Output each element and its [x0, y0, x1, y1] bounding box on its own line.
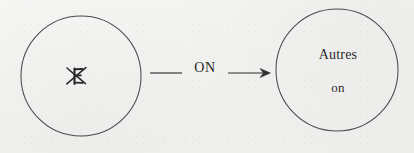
target-node-circle[interactable]	[276, 9, 398, 131]
diagram-canvas: ON Autres on	[0, 0, 414, 153]
target-node-label-primary: Autres	[277, 47, 399, 63]
diagram-vector-layer	[0, 0, 414, 153]
struck-out-letter-mark	[67, 68, 86, 84]
target-node-label-secondary: on	[277, 80, 399, 95]
edge-label-on: ON	[180, 60, 230, 76]
